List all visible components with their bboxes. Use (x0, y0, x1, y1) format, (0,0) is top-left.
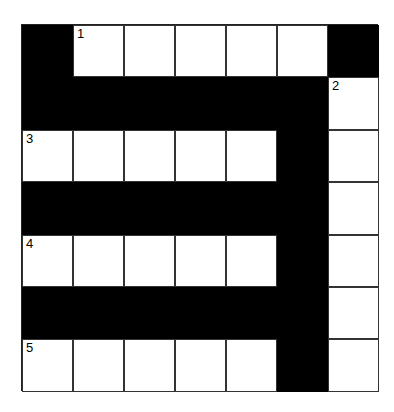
clue-number: 4 (26, 237, 33, 250)
answer-cell[interactable] (175, 235, 226, 287)
block-cell (22, 77, 73, 129)
block-cell (73, 287, 124, 339)
answer-cell[interactable] (73, 130, 124, 182)
block-cell (277, 130, 328, 182)
answer-cell[interactable] (124, 25, 175, 77)
block-cell (22, 182, 73, 234)
answer-cell[interactable] (124, 130, 175, 182)
block-cell (226, 287, 277, 339)
block-cell (73, 77, 124, 129)
block-cell (226, 77, 277, 129)
block-cell (277, 339, 328, 391)
answer-cell[interactable] (328, 287, 379, 339)
block-cell (175, 287, 226, 339)
clue-number: 1 (77, 27, 84, 40)
answer-cell[interactable] (328, 130, 379, 182)
answer-cell[interactable] (328, 339, 379, 391)
block-cell (277, 182, 328, 234)
block-cell (22, 25, 73, 77)
clue-number: 3 (26, 132, 33, 145)
answer-cell[interactable]: 5 (22, 339, 73, 391)
block-cell (124, 287, 175, 339)
answer-cell[interactable] (124, 235, 175, 287)
block-cell (175, 77, 226, 129)
answer-cell[interactable] (73, 339, 124, 391)
block-cell (175, 182, 226, 234)
answer-cell[interactable]: 2 (328, 77, 379, 129)
answer-cell[interactable] (175, 130, 226, 182)
answer-cell[interactable] (226, 130, 277, 182)
block-cell (277, 77, 328, 129)
answer-cell[interactable] (277, 25, 328, 77)
answer-cell[interactable] (328, 235, 379, 287)
block-cell (73, 182, 124, 234)
answer-cell[interactable] (73, 235, 124, 287)
answer-cell[interactable] (226, 25, 277, 77)
answer-cell[interactable] (175, 339, 226, 391)
crossword-grid: 12345 (21, 24, 378, 391)
answer-cell[interactable] (226, 235, 277, 287)
answer-cell[interactable] (124, 339, 175, 391)
answer-cell[interactable]: 4 (22, 235, 73, 287)
block-cell (124, 182, 175, 234)
answer-cell[interactable] (226, 339, 277, 391)
block-cell (22, 287, 73, 339)
block-cell (124, 77, 175, 129)
clue-number: 2 (332, 79, 339, 92)
answer-cell[interactable] (328, 182, 379, 234)
answer-cell[interactable] (175, 25, 226, 77)
block-cell (277, 287, 328, 339)
answer-cell[interactable]: 1 (73, 25, 124, 77)
block-cell (328, 25, 379, 77)
block-cell (226, 182, 277, 234)
answer-cell[interactable]: 3 (22, 130, 73, 182)
block-cell (277, 235, 328, 287)
clue-number: 5 (26, 341, 33, 354)
